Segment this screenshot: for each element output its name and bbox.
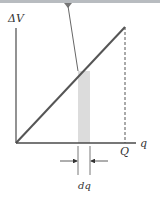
leader-line — [68, 6, 78, 71]
x-axis-label: q — [140, 137, 147, 150]
capacitor-energy-diagram: ΔV q Q dq — [0, 0, 160, 201]
dq-strip — [78, 71, 90, 143]
voltage-line — [16, 27, 125, 143]
y-axis-label: ΔV — [7, 12, 25, 25]
dq-label: dq — [78, 180, 91, 191]
q-end-label: Q — [120, 145, 129, 158]
